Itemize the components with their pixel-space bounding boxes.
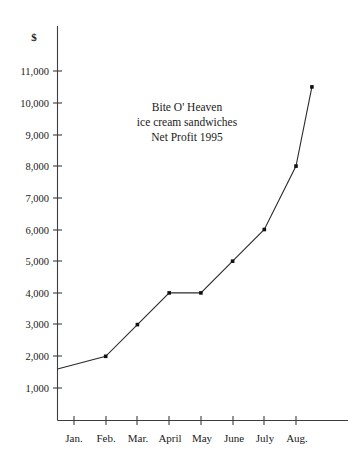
x-tick-label-june: June <box>224 432 244 444</box>
chart-title-line-3: Net Profit 1995 <box>151 131 223 143</box>
x-tick-label-aug: Aug. <box>286 432 308 444</box>
y-tick-label-11000: 11,000 <box>21 66 50 77</box>
x-tick-label-mar: Mar. <box>128 432 149 444</box>
x-tick-label-april: April <box>158 432 181 444</box>
y-tick-label-5000: 5,000 <box>25 256 49 267</box>
x-tick-label-jan: Jan. <box>65 432 83 444</box>
data-point-marker <box>231 259 235 263</box>
y-tick-label-6000: 6,000 <box>25 225 49 236</box>
y-tick-label-3000: 3,000 <box>25 319 49 330</box>
line-chart: $ 11,000 10,000 9,000 8,000 7,000 6,000 … <box>0 0 360 457</box>
y-tick-label-9000: 9,000 <box>25 130 49 141</box>
y-tick-label-10000: 10,000 <box>20 98 49 109</box>
data-point-marker <box>310 85 314 89</box>
y-tick-label-8000: 8,000 <box>25 161 49 172</box>
y-axis-currency-label: $ <box>31 31 37 43</box>
data-point-marker <box>104 355 108 359</box>
y-tick-label-7000: 7,000 <box>25 193 49 204</box>
data-point-marker <box>167 291 171 295</box>
data-point-marker <box>199 291 203 295</box>
chart-canvas: $ 11,000 10,000 9,000 8,000 7,000 6,000 … <box>0 0 360 457</box>
x-tick-label-feb: Feb. <box>96 432 116 444</box>
y-tick-label-1000: 1,000 <box>25 383 49 394</box>
chart-title-line-1: Bite O' Heaven <box>152 101 223 113</box>
chart-title-line-2: ice cream sandwiches <box>137 116 238 128</box>
y-tick-label-4000: 4,000 <box>25 288 49 299</box>
data-point-marker <box>136 323 140 327</box>
x-tick-label-may: May <box>192 432 213 444</box>
data-series-line <box>58 87 312 369</box>
data-point-marker <box>263 228 267 232</box>
y-tick-label-2000: 2,000 <box>25 351 49 362</box>
data-point-marker <box>294 164 298 168</box>
x-tick-label-july: July <box>256 432 275 444</box>
